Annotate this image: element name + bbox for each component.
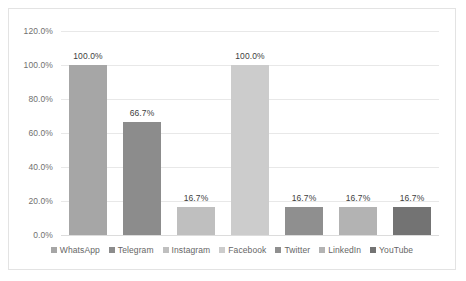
- legend-item-whatsapp[interactable]: WhatsApp: [51, 245, 100, 255]
- bar-twitter[interactable]: [285, 207, 323, 235]
- legend-item-youtube[interactable]: YouTube: [370, 245, 413, 255]
- y-axis-tick-label: 100.0%: [24, 60, 53, 70]
- legend-item-telegram[interactable]: Telegram: [109, 245, 154, 255]
- bar-value-label: 100.0%: [73, 51, 102, 61]
- axis-baseline: [61, 235, 439, 236]
- legend-swatch-icon: [163, 247, 169, 253]
- bar-value-label: 100.0%: [235, 51, 264, 61]
- legend-item-linkedin[interactable]: LinkedIn: [319, 245, 361, 255]
- bar-value-label: 16.7%: [400, 193, 425, 203]
- y-axis-tick-label: 80.0%: [28, 94, 53, 104]
- y-axis-tick-label: 120.0%: [24, 26, 53, 36]
- bar-instagram[interactable]: [177, 207, 215, 235]
- bar-group: 16.7%: [285, 31, 323, 235]
- bar-value-label: 16.7%: [292, 193, 317, 203]
- bar-group: 16.7%: [393, 31, 431, 235]
- bar-linkedin[interactable]: [339, 207, 377, 235]
- y-axis-tick-label: 40.0%: [28, 162, 53, 172]
- legend-item-instagram[interactable]: Instagram: [163, 245, 211, 255]
- legend-label: Facebook: [228, 245, 266, 255]
- y-axis-tick-label: 0.0%: [33, 230, 53, 240]
- bar-youtube[interactable]: [393, 207, 431, 235]
- bar-group: 16.7%: [339, 31, 377, 235]
- legend-label: Telegram: [118, 245, 154, 255]
- legend-swatch-icon: [319, 247, 325, 253]
- y-axis: 120.0%100.0%80.0%60.0%40.0%20.0%0.0%: [9, 31, 57, 235]
- bar-value-label: 16.7%: [346, 193, 371, 203]
- legend-swatch-icon: [219, 247, 225, 253]
- legend-swatch-icon: [109, 247, 115, 253]
- legend-label: Twitter: [284, 245, 310, 255]
- bar-whatsapp[interactable]: [69, 65, 107, 235]
- legend-swatch-icon: [275, 247, 281, 253]
- bar-value-label: 66.7%: [130, 108, 155, 118]
- legend-swatch-icon: [51, 247, 57, 253]
- y-axis-tick-label: 60.0%: [28, 128, 53, 138]
- bar-group: 16.7%: [177, 31, 215, 235]
- chart-container: 120.0%100.0%80.0%60.0%40.0%20.0%0.0% 100…: [8, 8, 456, 270]
- legend-label: LinkedIn: [328, 245, 361, 255]
- bar-series: 100.0%66.7%16.7%100.0%16.7%16.7%16.7%: [61, 31, 439, 235]
- bar-group: 66.7%: [123, 31, 161, 235]
- chart-legend: WhatsAppTelegramInstagramFacebookTwitter…: [9, 245, 455, 255]
- legend-item-facebook[interactable]: Facebook: [219, 245, 266, 255]
- bar-value-label: 16.7%: [184, 193, 209, 203]
- bar-group: 100.0%: [231, 31, 269, 235]
- bar-group: 100.0%: [69, 31, 107, 235]
- legend-swatch-icon: [370, 247, 376, 253]
- legend-label: YouTube: [379, 245, 413, 255]
- legend-label: Instagram: [172, 245, 211, 255]
- y-axis-tick-label: 20.0%: [28, 196, 53, 206]
- legend-item-twitter[interactable]: Twitter: [275, 245, 310, 255]
- legend-label: WhatsApp: [60, 245, 100, 255]
- bar-telegram[interactable]: [123, 122, 161, 235]
- bar-facebook[interactable]: [231, 65, 269, 235]
